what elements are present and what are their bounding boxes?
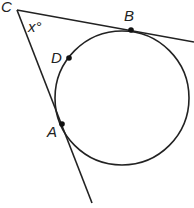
label-b: B: [124, 7, 134, 24]
point-b: [128, 27, 134, 33]
point-a: [59, 121, 65, 127]
label-angle-x: x°: [27, 18, 42, 35]
point-d: [66, 55, 72, 61]
tangent-line-cb: [17, 10, 194, 42]
tangent-line-ca: [17, 10, 92, 203]
label-c: C: [1, 0, 12, 15]
label-a: A: [46, 123, 57, 140]
circle: [55, 31, 189, 165]
label-d: D: [51, 49, 62, 66]
geometry-figure: C B D A x°: [0, 0, 194, 208]
